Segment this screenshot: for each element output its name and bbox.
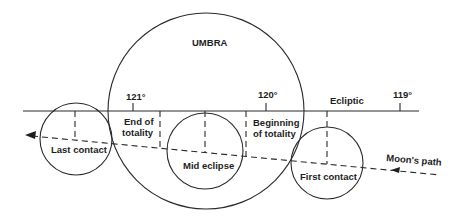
moons-path-line [32, 136, 440, 175]
ecliptic-label: Ecliptic [330, 95, 364, 106]
umbra-label: UMBRA [192, 37, 227, 48]
beginning-of-totality-label-line1: Beginning [253, 117, 300, 128]
tick-label-120: 120° [258, 89, 278, 100]
beginning-of-totality-label-line2: of totality [253, 128, 296, 139]
first-contact-label: First contact [300, 171, 358, 182]
last-contact-label: Last contact [51, 144, 108, 155]
mid-eclipse-label: Mid eclipse [183, 160, 234, 171]
path-arrowhead-mid-icon [391, 167, 400, 173]
path-arrowhead-left-icon [25, 131, 36, 139]
eclipse-diagram: UMBRA Ecliptic 121° 120° 119° Moon's pat… [0, 0, 460, 222]
moons-path-label: Moon's path [386, 152, 443, 168]
end-of-totality-label-line2: totality [122, 127, 154, 138]
end-of-totality-label-line1: End of [124, 116, 154, 127]
last-contact-moon [40, 103, 112, 175]
tick-label-119: 119° [393, 89, 412, 100]
tick-label-121: 121° [126, 91, 146, 102]
